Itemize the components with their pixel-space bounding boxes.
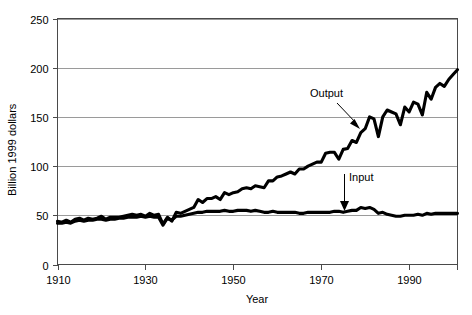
y-tick-label-250: 250 bbox=[30, 14, 48, 26]
y-tick-label-group: 050100150200250 bbox=[30, 14, 48, 272]
x-tick-label-1950: 1950 bbox=[221, 274, 245, 286]
chart-figure: 050100150200250 19101930195019701990 Bil… bbox=[0, 0, 472, 315]
output-arrow-head bbox=[350, 119, 360, 129]
input-arrow-head bbox=[340, 201, 349, 211]
y-tick-label-150: 150 bbox=[30, 112, 48, 124]
y-tick-label-50: 50 bbox=[36, 210, 48, 222]
series-group bbox=[58, 70, 458, 225]
axis-frame bbox=[57, 18, 458, 265]
y-tick-group bbox=[53, 20, 58, 266]
line-chart: 050100150200250 19101930195019701990 Bil… bbox=[0, 0, 472, 315]
x-tick-group bbox=[59, 265, 458, 270]
y-axis-title: Billion 1999 dollars bbox=[6, 103, 18, 196]
input-annotation: Input bbox=[340, 171, 373, 211]
x-tick-label-1990: 1990 bbox=[397, 274, 421, 286]
series-line-output bbox=[58, 70, 458, 224]
y-tick-label-100: 100 bbox=[30, 161, 48, 173]
x-axis-title: Year bbox=[246, 293, 269, 305]
input-annotation-label: Input bbox=[349, 171, 373, 183]
output-annotation: Output bbox=[310, 87, 360, 129]
x-tick-label-1910: 1910 bbox=[46, 274, 70, 286]
y-tick-label-0: 0 bbox=[42, 260, 48, 272]
output-annotation-label: Output bbox=[310, 87, 343, 99]
x-tick-label-1930: 1930 bbox=[133, 274, 157, 286]
x-tick-label-1970: 1970 bbox=[309, 274, 333, 286]
y-tick-label-200: 200 bbox=[30, 63, 48, 75]
x-tick-label-group: 19101930195019701990 bbox=[46, 274, 421, 286]
